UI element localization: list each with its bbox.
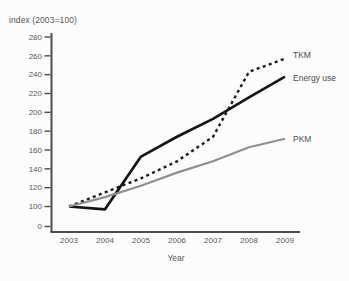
y-tick-label: 100 xyxy=(29,202,43,211)
series-label-tkm: TKM xyxy=(293,50,311,60)
x-tick-label: 2005 xyxy=(132,236,150,245)
y-tick-label: 220 xyxy=(29,89,43,98)
y-tick-label: 0 xyxy=(38,222,43,231)
y-tick-label: 260 xyxy=(29,52,43,61)
y-tick-label: 120 xyxy=(29,183,43,192)
y-tick-label: 280 xyxy=(29,33,43,42)
series-line-tkm xyxy=(69,59,285,207)
y-tick-label: 140 xyxy=(29,165,43,174)
x-tick-label: 2003 xyxy=(60,236,78,245)
x-axis-title: Year xyxy=(140,253,212,263)
y-tick-label: 160 xyxy=(29,146,43,155)
y-tick-label: 180 xyxy=(29,127,43,136)
x-tick-label: 2009 xyxy=(276,236,294,245)
x-tick-label: 2006 xyxy=(168,236,186,245)
x-tick-label: 2008 xyxy=(240,236,258,245)
series-line-pkm xyxy=(69,139,285,207)
y-tick-label: 200 xyxy=(29,108,43,117)
x-tick-label: 2007 xyxy=(204,236,222,245)
series-line-energy-use xyxy=(69,77,285,210)
x-tick-label: 2004 xyxy=(96,236,114,245)
series-label-pkm: PKM xyxy=(293,134,311,144)
y-tick-label: 240 xyxy=(29,70,43,79)
series-label-energy-use: Energy use xyxy=(293,73,336,83)
line-chart-figure: index (2003=100) 01001201401601802002202… xyxy=(0,0,349,281)
